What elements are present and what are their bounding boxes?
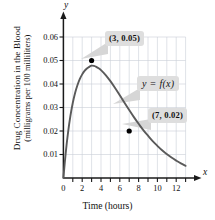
ytick-label-5: 0.06 — [24, 33, 58, 42]
x-axis-letter: x — [203, 167, 207, 177]
xtick-label-8: 8 — [131, 184, 147, 193]
grid-horizontal — [63, 37, 185, 155]
xtick-label-4: 4 — [93, 184, 109, 193]
xtick-label-0: 0 — [55, 184, 71, 193]
xtick-label-10: 10 — [149, 184, 165, 193]
drug-concentration-chart: 0.01 0.02 0.03 0.04 0.05 0.06 0 2 4 6 8 … — [0, 0, 215, 220]
decay-point-callout: (7, 0.02) — [148, 108, 187, 123]
data-point-marker-1 — [127, 128, 132, 133]
ytick-label-0: 0.01 — [24, 150, 58, 159]
xtick-label-12: 12 — [168, 184, 184, 193]
ytick-label-1: 0.02 — [24, 127, 58, 136]
ytick-label-3: 0.04 — [24, 80, 58, 89]
x-axis-title: Time (hours) — [0, 200, 215, 211]
peak-point-callout: (3, 0.05) — [105, 31, 144, 46]
xtick-label-2: 2 — [74, 184, 90, 193]
x-axis — [63, 175, 201, 181]
xtick-label-6: 6 — [112, 184, 128, 193]
ytick-label-2: 0.03 — [24, 103, 58, 112]
peak-callout-tail — [81, 42, 108, 59]
y-axis-letter: y — [64, 0, 68, 10]
function-callout: y = f(x) — [137, 76, 179, 91]
data-point-marker-0 — [89, 58, 94, 63]
ytick-label-4: 0.05 — [24, 56, 58, 65]
